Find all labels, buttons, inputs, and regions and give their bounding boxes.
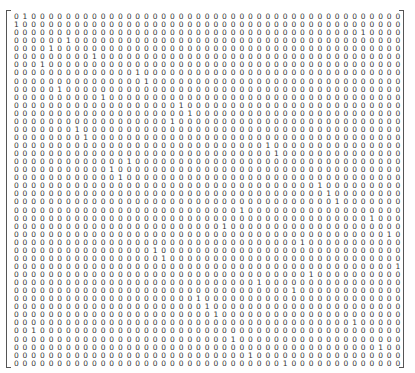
matrix-cell: 0 (185, 360, 194, 368)
matrix-cell: 0 (194, 360, 203, 368)
matrix-cell: 1 (281, 360, 290, 368)
matrix-cell: 0 (394, 360, 403, 368)
matrix-cell: 0 (168, 360, 177, 368)
matrix-cell: 0 (203, 360, 212, 368)
matrix-cell: 0 (29, 360, 38, 368)
matrix-bracket: 0100000000000000000000000000000000000000… (6, 10, 404, 368)
matrix-cell: 0 (64, 360, 73, 368)
matrix-cell: 0 (220, 360, 229, 368)
matrix-cell: 0 (385, 360, 394, 368)
matrix-cell: 0 (38, 360, 47, 368)
matrix-cell: 0 (21, 360, 30, 368)
matrix-cell: 0 (246, 360, 255, 368)
matrix-cell: 0 (316, 360, 325, 368)
matrix-cell: 0 (73, 360, 82, 368)
matrix-cell: 0 (298, 360, 307, 368)
matrix-cell: 0 (142, 360, 151, 368)
matrix-cell: 0 (107, 360, 116, 368)
binary-matrix: 0100000000000000000000000000000000000000… (12, 13, 402, 368)
matrix-cell: 0 (272, 360, 281, 368)
matrix-cell: 0 (116, 360, 125, 368)
matrix-cell: 0 (376, 360, 385, 368)
matrix-cell: 0 (263, 360, 272, 368)
matrix-cell: 0 (81, 360, 90, 368)
matrix-cell: 0 (368, 360, 377, 368)
matrix-cell: 0 (99, 360, 108, 368)
matrix-cell: 0 (350, 360, 359, 368)
matrix-cell: 0 (342, 360, 351, 368)
matrix-cell: 0 (125, 360, 134, 368)
matrix-cell: 0 (159, 360, 168, 368)
matrix-cell: 0 (307, 360, 316, 368)
matrix-cell: 0 (133, 360, 142, 368)
matrix-cell: 0 (359, 360, 368, 368)
matrix-cell: 0 (55, 360, 64, 368)
matrix-cell: 0 (324, 360, 333, 368)
matrix-cell: 0 (333, 360, 342, 368)
matrix-cell: 0 (290, 360, 299, 368)
matrix-cell: 0 (47, 360, 56, 368)
matrix-cell: 0 (151, 360, 160, 368)
matrix-cell: 0 (90, 360, 99, 368)
matrix-cell: 0 (229, 360, 238, 368)
matrix-cell: 0 (177, 360, 186, 368)
matrix-cell: 0 (255, 360, 264, 368)
matrix-cell: 0 (237, 360, 246, 368)
matrix-cell: 0 (211, 360, 220, 368)
matrix-cell: 0 (12, 360, 21, 368)
